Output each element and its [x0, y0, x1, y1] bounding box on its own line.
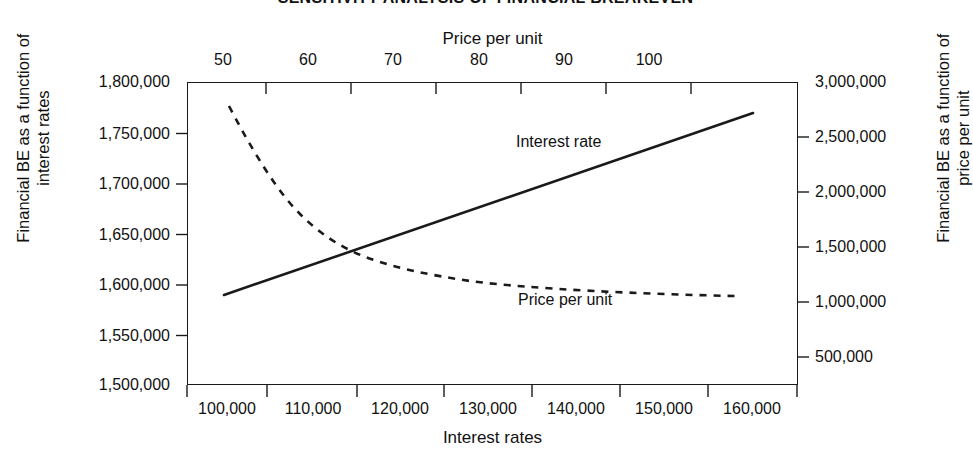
top-tick-label-3: 80 — [470, 51, 488, 69]
top-tick-label-5: 100 — [636, 51, 663, 69]
right-axis-title: Financial BE as a function of price per … — [933, 13, 973, 263]
bottom-axis-title: Interest rates — [187, 428, 798, 448]
right-tick-label-2500000: 2,500,000 — [815, 128, 886, 146]
bottom-tick-label-3: 130,000 — [459, 400, 517, 418]
right-tick-label-2000000: 2,000,000 — [815, 183, 886, 201]
top-tick-label-2: 70 — [384, 51, 402, 69]
top-tick-label-0: 50 — [214, 51, 232, 69]
top-tick-label-1: 60 — [299, 51, 317, 69]
bottom-tick-label-0: 100,000 — [198, 400, 256, 418]
left-tick-label-1800000: 1,800,000 — [74, 73, 170, 91]
bottom-tick-label-2: 120,000 — [371, 400, 429, 418]
right-tick-label-1500000: 1,500,000 — [815, 238, 886, 256]
left-tick-label-1700000: 1,700,000 — [74, 175, 170, 193]
right-tick-label-500000: 500,000 — [815, 348, 873, 366]
bottom-tick-label-5: 150,000 — [635, 400, 693, 418]
right-tick-label-3000000: 3,000,000 — [815, 73, 886, 91]
top-tick-label-4: 90 — [555, 51, 573, 69]
left-tick-label-1500000: 1,500,000 — [74, 376, 170, 394]
series-label-interest-rate: Interest rate — [516, 133, 601, 151]
left-tick-label-1600000: 1,600,000 — [74, 276, 170, 294]
series-line-interest-rate — [224, 113, 753, 295]
bottom-tick-label-6: 160,000 — [723, 400, 781, 418]
left-axis-ticks — [176, 134, 187, 336]
left-axis-title: Financial BE as a function of interest r… — [13, 13, 53, 263]
right-tick-label-1000000: 1,000,000 — [815, 293, 886, 311]
series-label-price-per-unit: Price per unit — [518, 291, 612, 309]
top-axis-ticks — [266, 82, 691, 94]
left-tick-label-1650000: 1,650,000 — [74, 226, 170, 244]
right-axis-ticks — [798, 137, 809, 357]
bottom-tick-label-4: 140,000 — [547, 400, 605, 418]
left-tick-label-1750000: 1,750,000 — [74, 125, 170, 143]
bottom-axis-ticks — [187, 385, 797, 397]
bottom-tick-label-1: 110,000 — [285, 400, 342, 418]
left-tick-label-1550000: 1,550,000 — [74, 327, 170, 345]
